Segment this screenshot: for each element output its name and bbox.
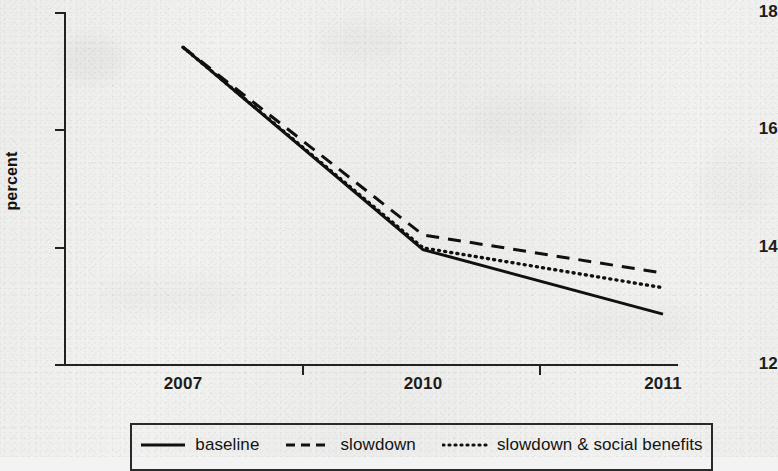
legend-item-slowdown: slowdown [285, 435, 415, 455]
legend-swatch-solid-icon [140, 439, 186, 451]
series-line-baseline [183, 47, 663, 314]
legend-label-baseline: baseline [195, 435, 259, 455]
legend-item-baseline: baseline [140, 435, 259, 455]
series-line-slowdown-social-benefits [183, 47, 663, 288]
legend-item-slowdown-social-benefits: slowdown & social benefits [442, 435, 703, 455]
legend-swatch-dotted-icon [442, 439, 488, 451]
legend-swatch-dashed-icon [285, 439, 331, 451]
legend-label-slowdown-social: slowdown & social benefits [497, 435, 703, 455]
legend: baseline slowdown slowdown & social bene… [130, 423, 713, 467]
series-group [183, 47, 663, 314]
legend-label-slowdown: slowdown [340, 435, 415, 455]
series-line-slowdown [183, 47, 663, 273]
